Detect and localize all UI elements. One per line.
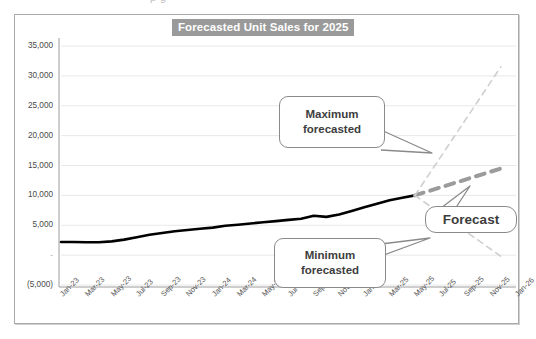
chart-title: Forecasted Unit Sales for 2025	[172, 19, 354, 36]
y-axis-tick-label: 20,000	[9, 131, 53, 140]
y-axis-tick-label: -	[9, 250, 53, 259]
cut-off-text-above-chart: p g	[0, 0, 533, 13]
callout-maximum-forecasted: Maximum forecasted	[279, 96, 385, 148]
y-axis-tick-label: 5,000	[9, 220, 53, 229]
y-axis-tick-label: 35,000	[9, 41, 53, 50]
y-axis-tick-label: 25,000	[9, 101, 53, 110]
callout-forecast: Forecast	[425, 206, 517, 233]
y-axis-tick-label: 10,000	[9, 190, 53, 199]
y-axis-tick-label: 30,000	[9, 71, 53, 80]
callout-minimum-forecasted: Minimum forecasted	[274, 238, 386, 288]
chart-frame	[14, 14, 519, 324]
cut-off-text: p g	[150, 0, 167, 3]
y-axis-tick-label: 15,000	[9, 161, 53, 170]
y-axis-tick-label: (5,000)	[9, 280, 53, 289]
